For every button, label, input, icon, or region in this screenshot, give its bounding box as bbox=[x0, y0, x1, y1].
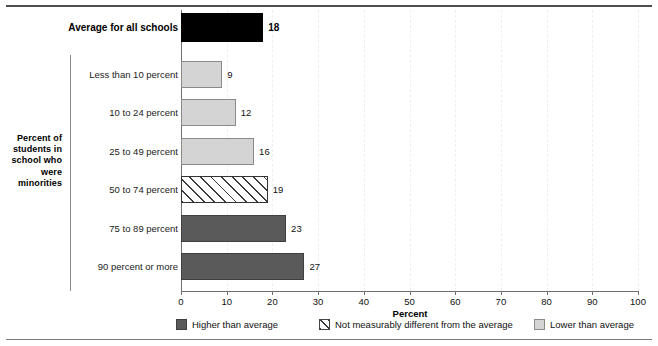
x-axis-tick-label: 100 bbox=[630, 296, 646, 307]
x-axis-title: Percent bbox=[181, 308, 639, 319]
category-label: 90 percent or more bbox=[98, 261, 178, 272]
legend-swatch-light bbox=[534, 319, 545, 330]
gridline bbox=[638, 10, 640, 291]
legend-swatch-dark bbox=[176, 319, 187, 330]
bottom-rule bbox=[6, 339, 652, 340]
x-axis-tick bbox=[364, 291, 365, 295]
legend-label: Lower than average bbox=[550, 319, 634, 330]
x-axis-tick bbox=[181, 291, 182, 295]
x-axis-tick-label: 30 bbox=[313, 296, 324, 307]
x-axis-tick-label: 50 bbox=[404, 296, 415, 307]
gridline bbox=[547, 10, 549, 291]
x-axis-tick bbox=[455, 291, 456, 295]
x-axis-tick-label: 90 bbox=[587, 296, 598, 307]
x-axis-tick bbox=[272, 291, 273, 295]
bar-value-label: 9 bbox=[227, 69, 232, 80]
category-label: Less than 10 percent bbox=[89, 69, 178, 80]
gridline bbox=[364, 10, 366, 291]
gridline bbox=[455, 10, 457, 291]
x-axis-tick-label: 20 bbox=[267, 296, 278, 307]
category-bracket-line bbox=[70, 55, 71, 291]
gridline bbox=[410, 10, 412, 291]
gridline bbox=[272, 10, 274, 291]
x-axis-tick bbox=[547, 291, 548, 295]
bar[interactable] bbox=[181, 253, 304, 280]
category-label: 75 to 89 percent bbox=[109, 223, 178, 234]
gridline bbox=[501, 10, 503, 291]
x-axis-tick bbox=[592, 291, 593, 295]
y-axis-title-line: students in bbox=[4, 144, 62, 155]
bar[interactable] bbox=[181, 61, 222, 88]
y-axis-title-line: minorities bbox=[4, 178, 62, 189]
y-axis-title: Percent ofstudents inschool whowereminor… bbox=[4, 133, 62, 189]
bar-value-label: 19 bbox=[273, 184, 284, 195]
legend-item[interactable]: Higher than average bbox=[176, 319, 278, 330]
bar[interactable] bbox=[181, 215, 286, 242]
top-rule bbox=[6, 5, 652, 7]
x-axis-tick bbox=[638, 291, 639, 295]
bar-value-label: 23 bbox=[291, 223, 302, 234]
x-axis-tick-label: 80 bbox=[541, 296, 552, 307]
category-label: 25 to 49 percent bbox=[109, 146, 178, 157]
x-axis-tick-label: 40 bbox=[359, 296, 370, 307]
category-label: 50 to 74 percent bbox=[109, 184, 178, 195]
y-axis-title-line: school who bbox=[4, 155, 62, 166]
bar-value-label: 16 bbox=[259, 146, 270, 157]
bar[interactable] bbox=[181, 138, 254, 165]
bar-value-label: 27 bbox=[309, 261, 320, 272]
x-axis-tick bbox=[501, 291, 502, 295]
x-axis-tick-label: 60 bbox=[450, 296, 461, 307]
x-axis-tick bbox=[227, 291, 228, 295]
legend-label: Higher than average bbox=[192, 319, 278, 330]
category-label: 10 to 24 percent bbox=[109, 107, 178, 118]
legend-item[interactable]: Lower than average bbox=[534, 319, 634, 330]
x-axis-tick bbox=[318, 291, 319, 295]
y-axis-title-line: were bbox=[4, 167, 62, 178]
x-axis-tick bbox=[410, 291, 411, 295]
x-axis-tick-label: 0 bbox=[178, 296, 183, 307]
x-axis-tick-label: 70 bbox=[496, 296, 507, 307]
legend-swatch-hatch bbox=[319, 319, 330, 330]
bar[interactable] bbox=[181, 99, 236, 126]
gridline bbox=[318, 10, 320, 291]
gridline bbox=[592, 10, 594, 291]
x-axis-tick-label: 10 bbox=[221, 296, 232, 307]
y-axis-title-line: Percent of bbox=[4, 133, 62, 144]
bar-value-label: 18 bbox=[268, 22, 279, 33]
bar[interactable] bbox=[181, 13, 263, 42]
chart-legend: Higher than averageNot measurably differ… bbox=[0, 319, 658, 333]
bar-value-label: 12 bbox=[241, 107, 252, 118]
average-row-label: Average for all schools bbox=[68, 22, 178, 33]
legend-item[interactable]: Not measurably different from the averag… bbox=[319, 319, 513, 330]
bar[interactable] bbox=[181, 176, 268, 203]
legend-label: Not measurably different from the averag… bbox=[335, 319, 513, 330]
